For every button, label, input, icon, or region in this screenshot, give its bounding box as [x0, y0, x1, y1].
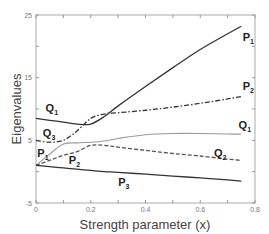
x-tick-label: 0.2 — [86, 206, 96, 213]
curve-label: P2 — [69, 154, 80, 168]
x-tick-label: 0 — [34, 206, 38, 213]
series-line — [36, 26, 241, 124]
series-lines — [36, 26, 241, 181]
x-axis-label: Strength parameter (x) — [80, 217, 211, 232]
curve-label: P3 — [118, 176, 129, 190]
y-axis-label: Eigenvalues — [9, 73, 24, 144]
curve-label: P2 — [243, 80, 254, 94]
series-line — [36, 165, 241, 181]
x-tick-label: 0.8 — [250, 206, 260, 213]
curve-label: Q1 — [46, 102, 59, 116]
y-tick-label: 25 — [24, 12, 32, 19]
curve-label: P1 — [243, 31, 254, 45]
y-tick-label: 5 — [28, 137, 32, 144]
curve-label: P1 — [37, 147, 48, 161]
y-tick-label: 15 — [24, 74, 32, 81]
y-tick-label: -5 — [26, 200, 32, 207]
axes: 00.20.40.60.8-551525 — [24, 12, 260, 214]
x-tick-label: 0.4 — [141, 206, 151, 213]
series-line — [36, 145, 241, 166]
curve-label: Q1 — [239, 119, 252, 133]
curve-label: Q2 — [214, 147, 227, 161]
curve-label: Q3 — [43, 127, 56, 141]
x-tick-label: 0.6 — [195, 206, 205, 213]
eigenvalue-line-chart: 00.20.40.60.8-551525 P1P2Q1Q2P3Q1Q3P1P2 … — [0, 0, 269, 234]
